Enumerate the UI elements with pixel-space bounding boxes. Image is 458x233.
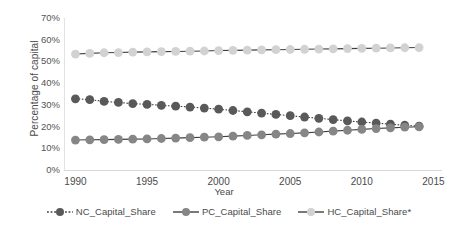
data-point-marker [157, 47, 166, 56]
data-point-marker [272, 45, 281, 54]
chart-plot-series [0, 0, 458, 233]
data-point-marker [372, 124, 381, 133]
data-point-marker [157, 134, 166, 143]
data-point-marker [400, 123, 409, 132]
data-point-marker [71, 94, 80, 103]
data-point-marker [114, 98, 123, 107]
series-HC_Capital_Share* [71, 43, 423, 58]
data-point-marker [214, 132, 223, 141]
data-point-marker [329, 115, 338, 124]
data-point-marker [229, 46, 238, 55]
data-point-marker [243, 46, 252, 55]
data-point-marker [343, 117, 352, 126]
data-point-marker [272, 130, 281, 139]
data-point-marker [157, 101, 166, 110]
data-point-marker [343, 126, 352, 135]
data-point-marker [329, 44, 338, 53]
x-axis-title: Year [0, 186, 458, 197]
legend-item-NC_Capital_Share[interactable]: NC_Capital_Share [47, 206, 156, 217]
data-point-marker [300, 45, 309, 54]
data-point-marker [257, 109, 266, 118]
data-point-marker [357, 125, 366, 134]
data-point-marker [386, 44, 395, 53]
legend-label: PC_Capital_Share [202, 206, 282, 217]
data-point-marker [243, 131, 252, 140]
legend-item-PC_Capital_Share[interactable]: PC_Capital_Share [173, 206, 282, 217]
data-point-marker [229, 106, 238, 115]
series-PC_Capital_Share [71, 122, 423, 144]
data-point-marker [200, 133, 209, 142]
data-point-marker [114, 48, 123, 57]
data-point-marker [286, 129, 295, 138]
data-point-marker [286, 45, 295, 54]
capital-share-line-chart: Percentage of capital 0%10%20%30%40%50%6… [0, 0, 458, 233]
data-point-marker [143, 135, 152, 144]
data-point-marker [85, 135, 94, 144]
data-point-marker [143, 47, 152, 56]
data-point-marker [186, 47, 195, 56]
data-point-marker [71, 50, 80, 59]
data-point-marker [200, 47, 209, 56]
data-point-marker [300, 128, 309, 137]
legend-key-PC_Capital_Share [173, 207, 199, 217]
data-point-marker [329, 127, 338, 136]
x-axis-title-text: Year [214, 186, 233, 197]
data-point-marker [214, 105, 223, 114]
data-point-marker [85, 49, 94, 58]
legend-label: HC_Capital_Share* [327, 206, 411, 217]
data-point-marker [128, 99, 137, 108]
legend-label: NC_Capital_Share [76, 206, 156, 217]
data-point-marker [415, 43, 424, 52]
data-point-marker [357, 44, 366, 53]
data-point-marker [257, 46, 266, 55]
series-NC_Capital_Share [71, 94, 423, 130]
data-point-marker [400, 43, 409, 52]
data-point-marker [386, 123, 395, 132]
data-point-marker [314, 128, 323, 137]
data-point-marker [128, 135, 137, 144]
data-point-marker [100, 48, 109, 57]
data-point-marker [372, 44, 381, 53]
legend-key-HC_Capital_Share* [298, 207, 324, 217]
data-point-marker [257, 130, 266, 139]
data-point-marker [71, 136, 80, 145]
data-point-marker [143, 100, 152, 109]
data-point-marker [200, 104, 209, 113]
legend-key-NC_Capital_Share [47, 207, 73, 217]
legend-item-HC_Capital_Share*[interactable]: HC_Capital_Share* [298, 206, 411, 217]
data-point-marker [300, 113, 309, 122]
chart-legend: NC_Capital_SharePC_Capital_ShareHC_Capit… [0, 206, 458, 217]
data-point-marker [214, 46, 223, 55]
data-point-marker [314, 45, 323, 54]
data-point-marker [171, 134, 180, 143]
data-point-marker [343, 44, 352, 53]
data-point-marker [272, 110, 281, 119]
data-point-marker [415, 122, 424, 131]
data-point-marker [186, 133, 195, 142]
data-point-marker [243, 107, 252, 116]
data-point-marker [128, 48, 137, 57]
data-point-marker [114, 135, 123, 144]
data-point-marker [171, 47, 180, 56]
data-point-marker [186, 103, 195, 112]
data-point-marker [171, 102, 180, 111]
data-point-marker [229, 132, 238, 141]
data-point-marker [314, 114, 323, 123]
data-point-marker [100, 97, 109, 106]
data-point-marker [286, 111, 295, 120]
data-point-marker [100, 135, 109, 144]
data-point-marker [85, 95, 94, 104]
